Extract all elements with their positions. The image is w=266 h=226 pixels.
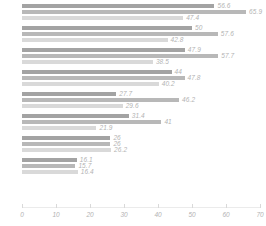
bar-value-label: 47.8: [188, 75, 201, 82]
x-axis-tick: [226, 204, 227, 208]
bar: [22, 142, 110, 146]
x-axis-tick: [124, 204, 125, 208]
x-axis-tick: [158, 204, 159, 208]
bar-group: 56.665.947.4: [22, 4, 260, 20]
bar: [22, 148, 111, 152]
bar-value-label: 40.2: [162, 81, 175, 88]
bar-row: 57.7: [22, 54, 260, 58]
bar-row: 16.1: [22, 158, 260, 162]
bar-value-label: 50: [195, 25, 202, 32]
bar-row: 46.2: [22, 98, 260, 102]
bar: [22, 32, 218, 36]
bar-group: 47.957.738.5: [22, 48, 260, 64]
bar: [22, 38, 168, 42]
bar-value-label: 46.2: [182, 97, 195, 104]
bar-value-label: 47.9: [188, 47, 201, 54]
x-axis-tick: [90, 204, 91, 208]
bar: [22, 136, 110, 140]
bar: [22, 76, 185, 80]
bar-value-label: 29.6: [126, 103, 139, 110]
bar-group: 27.746.229.6: [22, 92, 260, 108]
bar: [22, 120, 161, 124]
bar-value-label: 57.6: [221, 31, 234, 38]
bar-chart: 56.665.947.45057.642.847.957.738.54447.8…: [0, 0, 266, 226]
bar: [22, 158, 77, 162]
x-axis-tick-label: 60: [222, 212, 229, 219]
bar-value-label: 16.4: [81, 169, 94, 176]
bar-value-label: 57.7: [221, 53, 234, 60]
bar: [22, 170, 78, 174]
bar-value-label: 27.7: [119, 91, 132, 98]
bar: [22, 82, 159, 86]
bar-group: 4447.840.2: [22, 70, 260, 86]
bar: [22, 60, 153, 64]
bar-row: 38.5: [22, 60, 260, 64]
bar-value-label: 21.9: [99, 125, 112, 132]
bar: [22, 114, 129, 118]
bar-row: 56.6: [22, 4, 260, 8]
x-axis-tick-label: 70: [256, 212, 263, 219]
bar-group: 16.115.716.4: [22, 158, 260, 174]
bar: [22, 104, 123, 108]
bar-row: 40.2: [22, 82, 260, 86]
bar-group: 5057.642.8: [22, 26, 260, 42]
bar: [22, 92, 116, 96]
x-axis-line: [22, 207, 260, 208]
bar: [22, 164, 75, 168]
bar-value-label: 31.4: [132, 113, 145, 120]
bar-row: 26.2: [22, 148, 260, 152]
bar-row: 31.4: [22, 114, 260, 118]
bar-value-label: 56.6: [217, 3, 230, 10]
bar-row: 29.6: [22, 104, 260, 108]
bar-value-label: 41: [164, 119, 171, 126]
x-axis-tick-label: 10: [52, 212, 59, 219]
bar-row: 47.4: [22, 16, 260, 20]
plot-area: 56.665.947.45057.642.847.957.738.54447.8…: [22, 4, 260, 206]
bar: [22, 4, 214, 8]
x-axis-tick-label: 20: [86, 212, 93, 219]
bar-value-label: 44: [175, 69, 182, 76]
bar-row: 27.7: [22, 92, 260, 96]
bar: [22, 16, 183, 20]
bar-value-label: 26.2: [114, 147, 127, 154]
bar: [22, 54, 218, 58]
bar: [22, 26, 192, 30]
bar-row: 57.6: [22, 32, 260, 36]
bar-row: 42.8: [22, 38, 260, 42]
x-axis-tick: [22, 204, 23, 208]
bar: [22, 126, 96, 130]
x-axis-tick: [192, 204, 193, 208]
bar-group: 262626.2: [22, 136, 260, 152]
bar-value-label: 42.8: [171, 37, 184, 44]
bar: [22, 98, 179, 102]
bar-value-label: 65.9: [249, 9, 262, 16]
bar-row: 41: [22, 120, 260, 124]
x-axis: 010203040506070: [22, 207, 260, 226]
bar-row: 21.9: [22, 126, 260, 130]
bar-value-label: 47.4: [186, 15, 199, 22]
bar-row: 26: [22, 142, 260, 146]
bar-group: 31.44121.9: [22, 114, 260, 130]
bar-row: 26: [22, 136, 260, 140]
x-axis-tick: [56, 204, 57, 208]
bar-row: 47.8: [22, 76, 260, 80]
x-axis-tick-label: 50: [188, 212, 195, 219]
bar-row: 65.9: [22, 10, 260, 14]
bar-row: 15.7: [22, 164, 260, 168]
bar-row: 16.4: [22, 170, 260, 174]
x-axis-tick-label: 0: [20, 212, 24, 219]
x-axis-tick-label: 30: [120, 212, 127, 219]
bar-value-label: 38.5: [156, 59, 169, 66]
x-axis-tick: [260, 204, 261, 208]
bar: [22, 70, 172, 74]
bar: [22, 10, 246, 14]
bar-row: 44: [22, 70, 260, 74]
x-axis-tick-label: 40: [154, 212, 161, 219]
bar: [22, 48, 185, 52]
